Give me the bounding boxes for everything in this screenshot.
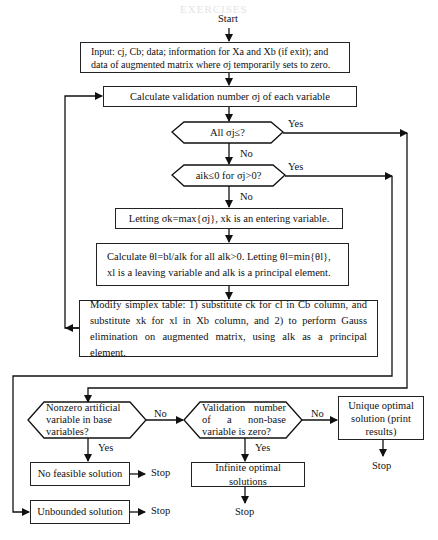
no-label-all-sigma: No (240, 148, 253, 159)
no-label-artificial: No (154, 408, 167, 419)
yes-label-aik: Yes (288, 161, 303, 172)
yes-label-nonbase: Yes (255, 442, 270, 453)
decision-artificial-text: Nonzero artificial variable in base vari… (46, 402, 132, 438)
no-feasible-box: No feasible solution (30, 462, 130, 486)
decision-nonbase: Validation number of a non-base variable… (202, 402, 286, 438)
start-label: Start (218, 13, 238, 24)
unbounded-box: Unbounded solution (30, 500, 130, 524)
decision-aik: aik≤0 for σj>0? (172, 165, 285, 186)
stop-label-infinite: Stop (235, 506, 254, 517)
yes-label-artificial: Yes (98, 442, 113, 453)
no-label-aik: No (240, 191, 253, 202)
infinite-optimal-box: Infinite optimal solutions (191, 462, 305, 487)
decision-all-sigma: All σj≤? (172, 122, 283, 143)
yes-label-all-sigma: Yes (288, 118, 303, 129)
decision-all-sigma-text: All σj≤? (210, 127, 245, 139)
decision-artificial: Nonzero artificial variable in base vari… (46, 402, 132, 438)
calculate-validation-box: Calculate validation number σj of each v… (103, 86, 357, 107)
letting-sigma-box: Letting σk=max{σj}, xk is an entering va… (115, 208, 343, 229)
input-step-box: Input: cj, Cb; data; information for Xa … (80, 42, 350, 73)
calculate-theta-box: Calculate θl=bl/alk for all alk>0. Letti… (96, 243, 349, 286)
unique-optimal-box: Unique optimal solution (print results) (338, 396, 424, 440)
stop-label-unique: Stop (372, 460, 391, 471)
no-label-nonbase: No (311, 408, 324, 419)
stop-label-unbounded: Stop (151, 505, 170, 516)
flowchart-canvas: EXERCISES (0, 0, 438, 540)
decision-aik-text: aik≤0 for σj>0? (196, 170, 262, 182)
modify-simplex-table-box: Modify simplex table: 1) substitute ck f… (79, 300, 378, 357)
decision-nonbase-text: Validation number of a non-base variable… (202, 402, 286, 438)
stop-label-no-feasible: Stop (151, 467, 170, 478)
